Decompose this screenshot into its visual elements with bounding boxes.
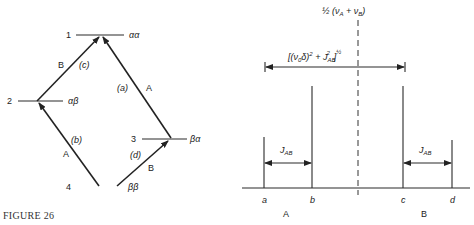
figure-caption: FIGURE 26	[3, 210, 54, 221]
line-label-d: d	[450, 195, 456, 205]
level-3-state: βα	[189, 134, 201, 144]
line-label-c: c	[401, 195, 406, 205]
transition-d: (d) B	[117, 141, 168, 186]
coupling-label-b: JAB	[418, 145, 432, 156]
transition-c: B (c)	[37, 37, 99, 101]
transition-d-nucleus: B	[148, 163, 154, 173]
transition-a-nucleus: A	[146, 83, 152, 93]
transition-d-id: (d)	[130, 150, 141, 160]
transition-b: (b) A	[39, 103, 99, 186]
transition-d-arrow	[117, 141, 168, 186]
transition-c-nucleus: B	[58, 60, 64, 70]
coupling-a: JAB	[265, 145, 311, 163]
group-label-a: A	[283, 209, 289, 219]
coupling-label-a: JAB	[279, 145, 293, 156]
level-2-state: αβ	[68, 96, 78, 106]
span-label: [(ν0δ)2 + JAB2]½	[287, 49, 341, 63]
line-label-a: a	[262, 195, 267, 205]
level-1-state: αα	[129, 30, 140, 40]
transition-b-arrow	[39, 103, 99, 186]
level-2-number: 2	[7, 96, 12, 106]
level-3-number: 3	[131, 134, 136, 144]
center-frequency-label: ½ (νA + νB)	[322, 6, 365, 17]
level-2: 2 αβ	[7, 96, 78, 106]
transition-a-id: (a)	[117, 83, 128, 93]
ab-spectrum: ½ (νA + νB) [(ν0δ)2 + JAB2]½ a b c d A B…	[242, 6, 470, 219]
transition-a-arrow	[103, 37, 171, 138]
level-4-state: ββ	[127, 182, 138, 192]
energy-level-diagram: 1 αα 2 αβ 3 βα 4 ββ (a) A (b)	[7, 30, 201, 192]
transition-b-id: (b)	[71, 135, 82, 145]
line-label-b: b	[310, 195, 315, 205]
transition-c-id: (c)	[79, 60, 90, 70]
transition-c-arrow	[37, 37, 99, 101]
transition-b-nucleus: A	[63, 149, 69, 159]
level-4-number: 4	[66, 182, 71, 192]
transition-a: (a) A	[103, 37, 171, 138]
level-1-number: 1	[66, 30, 71, 40]
diagram-canvas: 1 αα 2 αβ 3 βα 4 ββ (a) A (b)	[0, 0, 474, 225]
group-label-b: B	[421, 209, 427, 219]
level-4: 4 ββ	[66, 182, 138, 192]
coupling-b: JAB	[404, 145, 451, 163]
